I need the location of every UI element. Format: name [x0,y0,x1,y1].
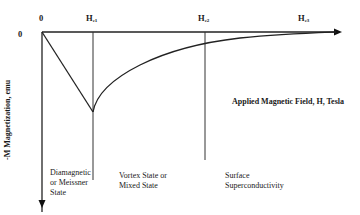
hc3-label: Hc3 [298,13,309,26]
region-surface-label: Surface Superconductivity [225,171,284,191]
y-axis-arrow-icon [39,200,46,208]
hc1-label: Hc1 [86,13,97,26]
region-vortex-line1: Vortex State or [119,171,167,181]
region-surface-line2: Superconductivity [225,181,284,191]
region-meissner-label: Diamagnetic or Meissner State [50,168,91,198]
region-vortex-line2: Mixed State [119,181,167,191]
region-meissner-line3: State [50,188,91,198]
region-meissner-line1: Diamagnetic [50,168,91,178]
hc2-label: Hc2 [198,13,209,26]
region-meissner-line2: or Meissner [50,178,91,188]
origin-y-label: 0 [18,29,22,39]
region-vortex-label: Vortex State or Mixed State [119,171,167,191]
origin-x-label: 0 [39,13,43,23]
meissner-line [42,32,93,112]
region-surface-line1: Surface [225,171,284,181]
x-axis-label: Applied Magnetic Field, H, Tesla [232,97,344,107]
y-axis-label: -M Magnetization, emu [3,80,12,160]
